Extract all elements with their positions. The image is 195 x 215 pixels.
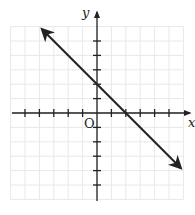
coordinate-plane: y x O <box>0 0 195 215</box>
x-axis-label: x <box>188 115 195 130</box>
origin-label: O <box>84 116 95 131</box>
y-axis-label: y <box>81 5 90 20</box>
